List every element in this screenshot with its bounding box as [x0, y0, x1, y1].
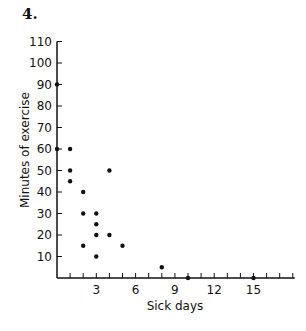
data-point: [81, 190, 85, 194]
data-point: [251, 276, 255, 280]
y-tick-label: 90: [37, 78, 52, 92]
data-point: [160, 265, 164, 269]
data-point: [94, 222, 98, 226]
data-point: [94, 254, 98, 258]
data-point: [55, 82, 59, 86]
y-tick-label: 30: [37, 207, 52, 221]
x-tick-label: 12: [207, 283, 222, 297]
data-point: [94, 211, 98, 215]
data-points: [55, 82, 256, 280]
y-tick-label: 100: [29, 56, 52, 70]
data-point: [107, 233, 111, 237]
axes: [57, 42, 295, 279]
data-point: [68, 147, 72, 151]
y-tick-label: 70: [37, 121, 52, 135]
data-point: [186, 276, 190, 280]
scatter-plot: 102030405060708090100110 3691215 Sick da…: [0, 0, 306, 331]
data-point: [94, 233, 98, 237]
data-point: [68, 179, 72, 183]
x-axis-ticks: 3691215: [70, 273, 293, 297]
y-tick-label: 60: [37, 142, 52, 156]
y-tick-label: 20: [37, 228, 52, 242]
y-tick-label: 80: [37, 99, 52, 113]
x-axis-label: Sick days: [147, 299, 204, 313]
data-point: [55, 147, 59, 151]
data-point: [81, 211, 85, 215]
x-tick-label: 15: [246, 283, 261, 297]
y-tick-label: 40: [37, 185, 52, 199]
y-tick-label: 50: [37, 164, 52, 178]
data-point: [120, 244, 124, 248]
data-point: [68, 168, 72, 172]
y-tick-label: 10: [37, 250, 52, 264]
x-tick-label: 9: [171, 283, 179, 297]
y-tick-label: 110: [29, 35, 52, 49]
data-point: [81, 244, 85, 248]
x-tick-label: 6: [132, 283, 140, 297]
x-tick-label: 3: [92, 283, 100, 297]
y-axis-label: Minutes of exercise: [18, 92, 32, 208]
data-point: [107, 168, 111, 172]
